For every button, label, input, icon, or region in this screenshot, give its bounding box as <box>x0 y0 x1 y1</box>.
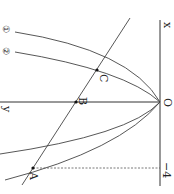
point-c <box>95 68 98 71</box>
point-a-label: A <box>27 171 40 181</box>
point-b-label: B <box>76 97 89 105</box>
point-c-label: C <box>97 74 110 82</box>
point-a <box>31 166 34 169</box>
curve-2-label: ② <box>1 47 11 55</box>
tick-minus-4-label: −4 <box>160 162 173 178</box>
coordinate-diagram: x y O A B C −4 ① ② <box>0 0 174 194</box>
x-axis-label: x <box>161 22 174 29</box>
y-axis-label: y <box>0 105 13 113</box>
curve-1-label: ① <box>1 25 11 33</box>
origin-label: O <box>161 98 174 107</box>
curve-2 <box>5 52 160 180</box>
curve-1 <box>0 32 160 154</box>
